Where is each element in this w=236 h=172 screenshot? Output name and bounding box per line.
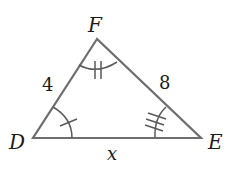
vertex-label-d: D bbox=[8, 130, 25, 154]
vertex-label-e: E bbox=[207, 130, 223, 154]
triangle-def bbox=[33, 39, 201, 138]
vertex-label-f: F bbox=[87, 13, 103, 37]
angle-mark-f bbox=[79, 61, 117, 79]
side-label-de: x bbox=[107, 143, 117, 164]
side-label-df: 4 bbox=[42, 74, 53, 95]
angle-mark-e bbox=[145, 107, 166, 138]
triangle-diagram: F D E 4 8 x bbox=[0, 0, 236, 172]
side-label-fe: 8 bbox=[159, 72, 170, 93]
angle-mark-d bbox=[53, 107, 77, 138]
